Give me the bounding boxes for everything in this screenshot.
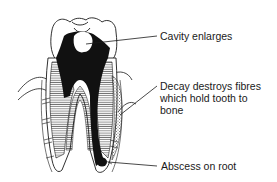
label-abscess-on-root: Abscess on root: [161, 160, 236, 172]
abscess-mark: [97, 158, 107, 167]
tooth-decay-diagram: Cavity enlarges Decay destroys fibres wh…: [0, 0, 277, 182]
label-cavity-enlarges: Cavity enlarges: [160, 30, 232, 42]
label-decay-destroys-fibres: Decay destroys fibres which hold tooth t…: [160, 80, 261, 116]
